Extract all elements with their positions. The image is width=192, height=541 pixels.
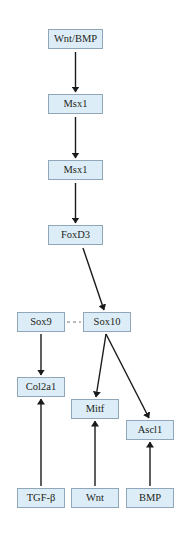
edges-layer xyxy=(0,0,192,541)
node-sox9: Sox9 xyxy=(17,312,65,332)
node-foxd3: FoxD3 xyxy=(48,225,103,245)
edge-foxd3-sox10 xyxy=(83,248,104,310)
signaling-diagram: Wnt/BMP Msx1 Msx1 FoxD3 Sox9 Sox10 Col2a… xyxy=(0,0,192,541)
node-wnt: Wnt xyxy=(71,488,119,508)
node-ascl1: Ascl1 xyxy=(126,420,174,440)
node-sox10: Sox10 xyxy=(83,312,131,332)
node-mitf: Mitf xyxy=(71,399,119,419)
node-bmp: BMP xyxy=(126,488,174,508)
node-msx1-second: Msx1 xyxy=(48,160,103,180)
node-msx1-first: Msx1 xyxy=(48,94,103,114)
node-wnt-bmp: Wnt/BMP xyxy=(48,29,103,49)
node-col2a1: Col2a1 xyxy=(17,377,65,397)
edge-sox10-mitf xyxy=(96,334,106,397)
node-tgf-beta: TGF-β xyxy=(17,488,65,508)
